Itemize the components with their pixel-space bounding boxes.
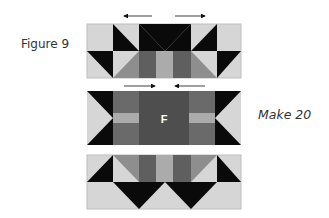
top-flying-geese-row bbox=[87, 24, 241, 78]
quilt-diagram: F bbox=[0, 0, 329, 218]
bottom-flying-geese-row bbox=[87, 155, 241, 209]
center-row: F bbox=[87, 91, 241, 145]
block-letter: F bbox=[161, 113, 168, 125]
